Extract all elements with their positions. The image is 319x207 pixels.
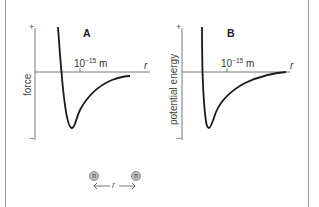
panel-b-y-minus: − <box>176 133 181 143</box>
panel-a-y-minus: − <box>29 133 34 143</box>
neutron-left-icon: n <box>89 171 99 181</box>
neutron-right-icon: n <box>131 171 141 181</box>
panel-a-x-axis-label: r <box>144 60 147 71</box>
panel-b-x-axis-label: r <box>290 60 293 71</box>
panel-b-tick-label: 10−15 m <box>221 57 254 69</box>
plots-canvas <box>0 0 319 207</box>
panel-a-label: A <box>83 27 91 39</box>
panel-a-axes <box>35 28 150 140</box>
panel-a-y-plus: + <box>29 22 34 32</box>
panel-b-label: B <box>227 27 235 39</box>
force-curve <box>58 27 130 128</box>
panel-a-tick-label: 10−15 m <box>74 57 107 69</box>
separation-label: r <box>112 180 115 190</box>
panel-b-axes <box>182 28 290 140</box>
panel-b-y-plus: + <box>176 22 181 32</box>
potential-energy-curve <box>202 27 286 128</box>
panel-b-y-axis-label: potential energy <box>168 54 179 125</box>
panel-a-y-axis-label: force <box>22 74 33 96</box>
